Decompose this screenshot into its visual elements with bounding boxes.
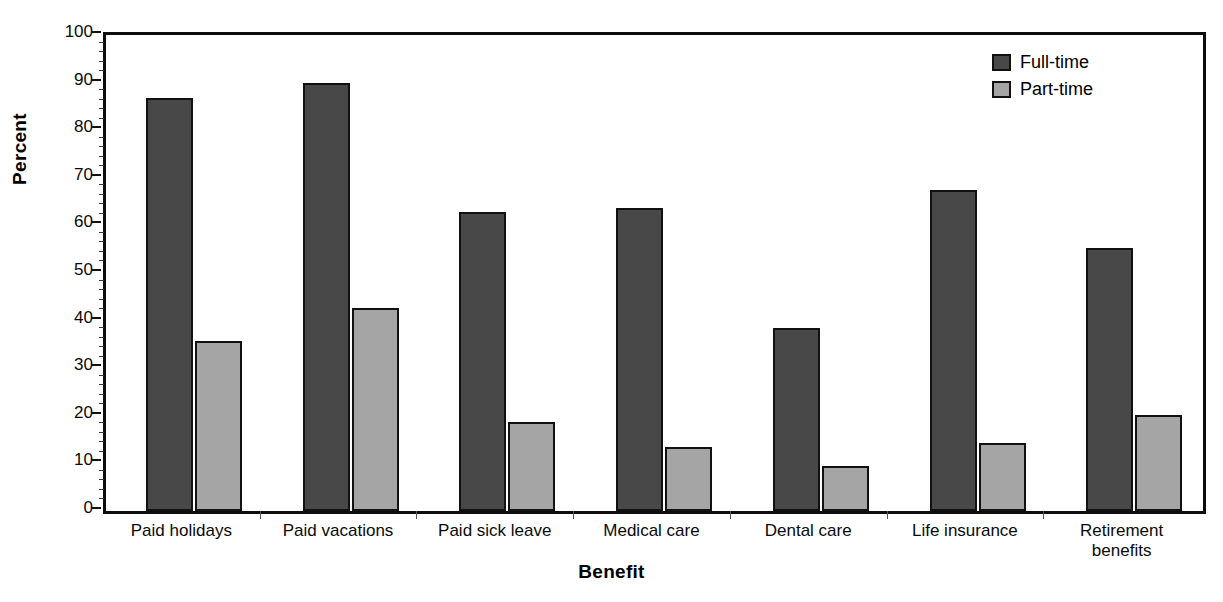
x-axis-title: Benefit <box>0 561 1223 583</box>
bars-layer <box>106 35 1203 511</box>
y-tick-mark <box>92 126 101 128</box>
x-tick-mark <box>416 511 417 519</box>
y-tick-mark-minor <box>99 260 104 261</box>
y-tick-mark <box>92 79 101 81</box>
bar-full-time <box>1086 248 1133 511</box>
x-category-label: Retirementbenefits <box>1043 521 1200 560</box>
bar-part-time <box>195 341 242 511</box>
x-category-label-line: Retirement <box>1043 521 1200 541</box>
y-tick-label: 100 <box>47 22 93 42</box>
y-tick-mark <box>92 364 101 366</box>
legend-item: Part-time <box>992 79 1093 99</box>
y-tick-mark-minor <box>99 327 104 328</box>
y-tick-mark <box>92 412 101 414</box>
bar-full-time <box>773 328 820 511</box>
y-tick-mark-minor <box>99 346 104 347</box>
y-tick-label: 30 <box>47 355 93 375</box>
y-tick-mark-minor <box>99 432 104 433</box>
x-category-label-line: Medical care <box>573 521 730 541</box>
y-tick-mark-minor <box>99 308 104 309</box>
legend-label: Part-time <box>1020 79 1093 100</box>
y-tick-label: 70 <box>47 165 93 185</box>
y-tick-mark <box>92 269 101 271</box>
legend-item: Full-time <box>992 52 1093 72</box>
y-tick-mark <box>92 317 101 319</box>
bar-full-time <box>616 208 663 511</box>
x-category-label-line: Paid sick leave <box>416 521 573 541</box>
y-tick-label: 50 <box>47 260 93 280</box>
y-axis-title: Percent <box>6 74 34 224</box>
legend-label: Full-time <box>1020 52 1089 73</box>
y-tick-label: 80 <box>47 117 93 137</box>
y-tick-mark-minor <box>99 51 104 52</box>
legend-swatch-part-time <box>992 81 1011 98</box>
y-tick-mark <box>92 507 101 509</box>
y-tick-mark <box>92 221 101 223</box>
y-tick-mark-minor <box>99 356 104 357</box>
x-category-label-line: Life insurance <box>887 521 1044 541</box>
y-tick-mark-minor <box>99 498 104 499</box>
legend-swatch-full-time <box>992 54 1011 71</box>
y-tick-mark-minor <box>99 89 104 90</box>
y-tick-mark-minor <box>99 337 104 338</box>
bar-part-time <box>822 466 869 511</box>
y-tick-mark-minor <box>99 61 104 62</box>
x-tick-mark <box>260 511 261 519</box>
bar-part-time <box>1135 415 1182 511</box>
y-tick-mark-minor <box>99 403 104 404</box>
x-category-label: Medical care <box>573 521 730 541</box>
y-tick-mark <box>92 31 101 33</box>
y-tick-mark-minor <box>99 42 104 43</box>
y-tick-mark-minor <box>99 470 104 471</box>
x-category-label: Paid sick leave <box>416 521 573 541</box>
y-tick-mark-minor <box>99 299 104 300</box>
y-tick-mark-minor <box>99 203 104 204</box>
y-tick-mark-minor <box>99 241 104 242</box>
y-tick-label: 0 <box>47 498 93 518</box>
bar-full-time <box>930 190 977 511</box>
bar-part-time <box>352 308 399 511</box>
y-tick-mark <box>92 174 101 176</box>
y-tick-mark-minor <box>99 108 104 109</box>
plot-area <box>103 32 1206 514</box>
bar-part-time <box>508 422 555 511</box>
bar-full-time <box>459 212 506 511</box>
y-tick-mark-minor <box>99 451 104 452</box>
bar-part-time <box>979 443 1026 511</box>
y-tick-mark <box>92 459 101 461</box>
y-tick-mark-minor <box>99 232 104 233</box>
x-category-label-line: Paid holidays <box>103 521 260 541</box>
y-tick-label: 60 <box>47 212 93 232</box>
y-tick-mark-minor <box>99 194 104 195</box>
y-tick-mark-minor <box>99 489 104 490</box>
y-tick-mark-minor <box>99 289 104 290</box>
y-tick-mark-minor <box>99 384 104 385</box>
y-tick-mark-minor <box>99 422 104 423</box>
x-category-label: Life insurance <box>887 521 1044 541</box>
y-tick-mark-minor <box>99 99 104 100</box>
x-tick-mark <box>887 511 888 519</box>
y-tick-mark-minor <box>99 165 104 166</box>
y-tick-mark-minor <box>99 479 104 480</box>
x-tick-mark <box>573 511 574 519</box>
y-tick-mark-minor <box>99 251 104 252</box>
y-tick-label: 40 <box>47 308 93 328</box>
y-tick-mark-minor <box>99 137 104 138</box>
y-tick-mark-minor <box>99 375 104 376</box>
y-tick-mark-minor <box>99 184 104 185</box>
x-tick-mark <box>1043 511 1044 519</box>
y-tick-mark-minor <box>99 394 104 395</box>
x-category-label: Paid holidays <box>103 521 260 541</box>
x-category-label: Paid vacations <box>260 521 417 541</box>
y-tick-mark-minor <box>99 441 104 442</box>
y-tick-mark-minor <box>99 280 104 281</box>
x-category-label-line: Paid vacations <box>260 521 417 541</box>
legend: Full-timePart-time <box>992 52 1093 99</box>
y-tick-mark-minor <box>99 118 104 119</box>
bar-part-time <box>665 447 712 511</box>
y-tick-label: 20 <box>47 403 93 423</box>
y-tick-mark-minor <box>99 213 104 214</box>
x-tick-mark <box>730 511 731 519</box>
x-category-label-line: benefits <box>1043 541 1200 561</box>
y-tick-label: 10 <box>47 450 93 470</box>
